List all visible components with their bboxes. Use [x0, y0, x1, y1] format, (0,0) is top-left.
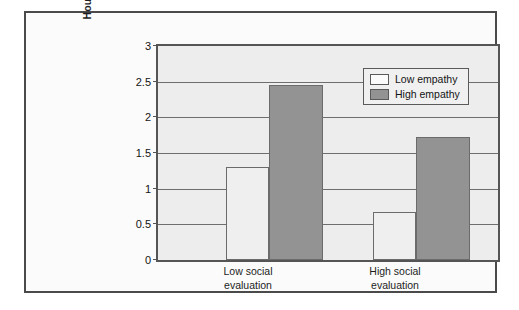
figure-frame: with Janet Hours participant would spend… [24, 11, 497, 293]
bar-low-empathy-group-1 [226, 167, 269, 260]
y-axis-tick-label: 3 [145, 40, 158, 52]
x-axis-category-label-low-social-evaluation: Low social evaluation [188, 264, 308, 292]
y-axis-tick-label: 2 [145, 111, 158, 123]
legend-item-low-empathy: Low empathy [370, 73, 460, 85]
bar-high-empathy-group-1 [269, 85, 323, 260]
x-axis-category-label-line-2: evaluation [188, 278, 308, 292]
legend-label-high-empathy: High empathy [395, 88, 460, 100]
y-axis-title-line-1: Hours participant would spend [80, 0, 95, 19]
y-axis-tick-label: 1 [145, 183, 158, 195]
bar-low-empathy-group-2 [373, 212, 416, 260]
y-axis-tick-label: 1.5 [136, 147, 158, 159]
y-axis-tick-label: 0.5 [136, 218, 158, 230]
gridline [158, 117, 498, 118]
y-axis-tick-label: 0 [145, 254, 158, 266]
plot-area: Low empathy High empathy 00.511.522.53 [156, 44, 500, 262]
legend-item-high-empathy: High empathy [370, 88, 460, 100]
x-axis-category-label-line-1: High social [335, 264, 455, 278]
x-axis-category-label-high-social-evaluation: High social evaluation [335, 264, 455, 292]
chart-legend: Low empathy High empathy [363, 68, 469, 105]
legend-label-low-empathy: Low empathy [395, 73, 457, 85]
y-axis-tick-label: 2.5 [136, 76, 158, 88]
y-axis-title: with Janet Hours participant would spend [78, 0, 112, 47]
legend-swatch-high-empathy [370, 89, 389, 100]
legend-swatch-low-empathy [370, 74, 389, 85]
x-axis-category-label-line-2: evaluation [335, 278, 455, 292]
bar-high-empathy-group-2 [416, 137, 470, 260]
x-axis-category-label-line-1: Low social [188, 264, 308, 278]
